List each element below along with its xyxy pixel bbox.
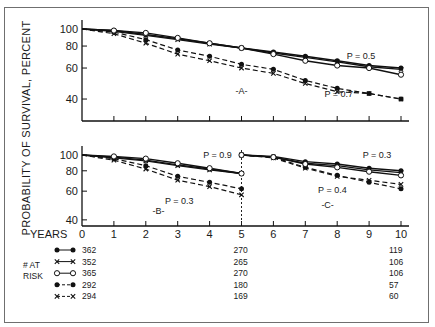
marker-x bbox=[71, 294, 75, 298]
x-tick-label: 0 bbox=[79, 228, 85, 240]
p-value-annotation: P = 0.9 bbox=[203, 150, 232, 160]
p-value-annotation: P = 0.5 bbox=[347, 51, 376, 61]
p-value-annotation: P = 0.4 bbox=[318, 185, 347, 195]
at-risk-row: 365270106 bbox=[54, 268, 403, 278]
marker-open-circle bbox=[207, 166, 212, 171]
y-axis-label: PROBABILITY OF SURVIVAL, PERCENT bbox=[20, 21, 32, 236]
marker-open-circle bbox=[398, 173, 403, 178]
marker-open-circle bbox=[303, 161, 308, 166]
marker-filled-circle bbox=[207, 180, 212, 185]
x-tick-label: 7 bbox=[302, 228, 308, 240]
at-risk-count: 119 bbox=[389, 245, 403, 255]
panel-a: -A-P = 0.5P = 0.7 bbox=[82, 28, 404, 102]
y-tick-label: 40 bbox=[66, 93, 78, 105]
at-risk-label-line1: # AT bbox=[23, 260, 40, 270]
at-risk-row: 29416960 bbox=[55, 291, 399, 301]
y-tick-label: 60 bbox=[66, 62, 78, 74]
panel-label: -B- bbox=[153, 206, 165, 216]
p-value-annotation: P = 0.3 bbox=[165, 196, 194, 206]
panel-b: -B-P = 0.9P = 0.3 bbox=[82, 150, 244, 216]
marker-filled-circle bbox=[399, 186, 404, 191]
series-line bbox=[82, 155, 242, 189]
marker-open-circle bbox=[70, 271, 75, 276]
marker-filled-circle bbox=[55, 248, 60, 253]
marker-open-circle bbox=[239, 171, 244, 176]
marker-open-circle bbox=[239, 45, 244, 50]
y-tick-label: 80 bbox=[66, 40, 78, 52]
at-risk-count: 270 bbox=[234, 245, 248, 255]
marker-open-circle bbox=[111, 154, 116, 159]
panel-label: -A- bbox=[236, 86, 248, 96]
at-risk-count: 60 bbox=[389, 291, 399, 301]
at-risk-count: 265 bbox=[234, 257, 248, 267]
at-risk-row: 29218057 bbox=[55, 280, 399, 290]
x-tick-label: 10 bbox=[395, 228, 407, 240]
at-risk-table: 3622701193522651063652701062921805729416… bbox=[54, 245, 403, 301]
panel-c: -C-P = 0.3P = 0.4 bbox=[239, 150, 404, 210]
at-risk-row: 352265106 bbox=[55, 257, 404, 267]
at-risk-row: 362270119 bbox=[55, 245, 403, 255]
at-risk-count: 106 bbox=[389, 257, 403, 267]
marker-open-circle bbox=[111, 28, 116, 33]
marker-open-circle bbox=[143, 156, 148, 161]
marker-open-circle bbox=[143, 30, 148, 35]
marker-open-circle bbox=[207, 41, 212, 46]
at-risk-count: 292 bbox=[82, 280, 96, 290]
y-axis-label-group: PROBABILITY OF SURVIVAL, PERCENT bbox=[20, 21, 32, 236]
marker-open-circle bbox=[271, 52, 276, 57]
x-tick-label: 6 bbox=[270, 228, 276, 240]
x-tick-label: 4 bbox=[207, 228, 213, 240]
marker-open-circle bbox=[335, 165, 340, 170]
marker-filled-circle bbox=[239, 186, 244, 191]
at-risk-count: 169 bbox=[234, 291, 248, 301]
marker-filled-circle bbox=[55, 282, 60, 287]
y-tick-label: 40 bbox=[66, 214, 78, 226]
marker-open-circle bbox=[335, 63, 340, 68]
marker-open-circle bbox=[303, 58, 308, 63]
y-tick-label: 80 bbox=[66, 165, 78, 177]
at-risk-count: 362 bbox=[82, 245, 96, 255]
marker-open-circle bbox=[398, 72, 403, 77]
marker-open-circle bbox=[239, 152, 244, 157]
x-tick-label: 9 bbox=[366, 228, 372, 240]
marker-open-circle bbox=[271, 155, 276, 160]
x-tick-label: 8 bbox=[334, 228, 340, 240]
marker-open-circle bbox=[175, 161, 180, 166]
x-tick-label: 5 bbox=[238, 228, 244, 240]
marker-open-circle bbox=[175, 35, 180, 40]
at-risk-count: 270 bbox=[234, 268, 248, 278]
x-tick-label: 2 bbox=[143, 228, 149, 240]
at-risk-count: 352 bbox=[82, 257, 96, 267]
marker-open-circle bbox=[367, 169, 372, 174]
marker-open-circle bbox=[367, 65, 372, 70]
x-axis-label: YEARS bbox=[30, 228, 67, 240]
at-risk-count: 294 bbox=[82, 291, 96, 301]
at-risk-count: 365 bbox=[82, 268, 96, 278]
p-value-annotation: P = 0.3 bbox=[363, 150, 392, 160]
at-risk-count: 106 bbox=[389, 268, 403, 278]
x-tick-label: 1 bbox=[111, 228, 117, 240]
y-tick-label: 100 bbox=[60, 23, 78, 35]
marker-filled-circle bbox=[71, 282, 76, 287]
marker-filled-circle bbox=[207, 54, 212, 59]
x-tick-label: 3 bbox=[175, 228, 181, 240]
marker-open-circle bbox=[54, 271, 59, 276]
marker-filled-circle bbox=[71, 248, 76, 253]
survival-chart: PROBABILITY OF SURVIVAL, PERCENT YEARS #… bbox=[0, 0, 435, 327]
at-risk-count: 180 bbox=[234, 280, 248, 290]
y-tick-label: 60 bbox=[66, 185, 78, 197]
p-value-annotation: P = 0.7 bbox=[324, 89, 353, 99]
at-risk-count: 57 bbox=[389, 280, 399, 290]
y-tick-label: 100 bbox=[60, 149, 78, 161]
panel-label: -C- bbox=[321, 200, 334, 210]
at-risk-label-line2: RISK bbox=[23, 271, 43, 281]
